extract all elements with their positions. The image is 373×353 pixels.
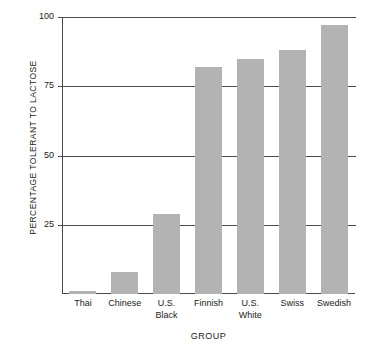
lactose-tolerance-bar-chart: PERCENTAGE TOLERANT TO LACTOSE 255075100…: [0, 0, 373, 353]
x-tick-label-3: Finnish: [188, 298, 230, 310]
bar-finnish: [195, 67, 222, 294]
x-tick-label-2: U.S. Black: [146, 298, 188, 321]
x-axis-title: GROUP: [62, 331, 355, 341]
x-tick-label-5: Swiss: [271, 298, 313, 310]
x-tick-label-6: Swedish: [313, 298, 355, 310]
bar-series: [62, 17, 355, 294]
bar-swedish: [321, 25, 348, 294]
x-tick-label-1: Chinese: [104, 298, 146, 310]
y-tick-label-25: 25: [8, 220, 54, 229]
bar-usblack: [153, 214, 180, 294]
y-tick-label-75: 75: [8, 81, 54, 90]
bar-thai: [69, 291, 96, 294]
x-tick-label-4: U.S. White: [229, 298, 271, 321]
bar-chinese: [111, 272, 138, 294]
bar-uswhite: [237, 59, 264, 294]
x-axis-tick-labels: ThaiChineseU.S. BlackFinnishU.S. WhiteSw…: [62, 298, 355, 328]
y-tick-label-100: 100: [8, 12, 54, 21]
y-tick-label-50: 50: [8, 151, 54, 160]
bar-swiss: [279, 50, 306, 294]
y-axis-tick-labels: 255075100: [8, 17, 54, 294]
x-tick-label-0: Thai: [62, 298, 104, 310]
